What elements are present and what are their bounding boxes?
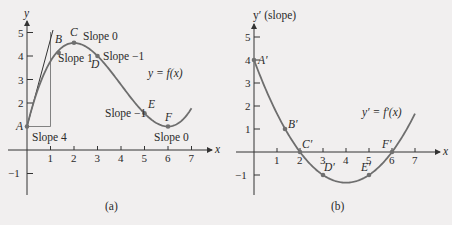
x-tick-b-2: 2	[297, 154, 303, 166]
point-f	[166, 124, 171, 129]
x-axis-label-b: x	[442, 145, 449, 157]
curve-label-f-prime: y′ = f′(x)	[361, 106, 402, 119]
y-tick-3: 3	[18, 74, 24, 86]
y-tick-b-neg1: −1	[235, 169, 247, 181]
y-tick-b-4: 4	[245, 54, 251, 66]
x-tick-b-4: 4	[343, 154, 349, 166]
point-b-prime	[283, 127, 288, 132]
label-e: E	[147, 98, 155, 110]
x-ticks-b: 1 2 3 4 5 6 7	[274, 148, 418, 166]
y-tick-b-3: 3	[245, 77, 251, 89]
x-tick-2: 2	[71, 152, 77, 164]
y-tick-b-1: 1	[245, 123, 251, 135]
caption-a: (a)	[105, 200, 118, 213]
annotation-slope-c: Slope 0	[83, 30, 118, 43]
point-c	[72, 41, 77, 46]
y-tick-5: 5	[18, 27, 24, 39]
point-c-prime	[298, 150, 303, 155]
y-tick-2: 2	[18, 97, 24, 109]
y-tick-b-2: 2	[245, 100, 251, 112]
label-a-prime: A′	[257, 54, 268, 66]
annotation-slope-d: Slope −1	[103, 50, 145, 63]
y-tick-b-5: 5	[245, 31, 251, 43]
point-a-prime	[252, 58, 257, 63]
x-ticks: 1 2 3 4 5 6 7	[48, 146, 195, 164]
x-axis-label: x	[214, 143, 221, 155]
label-e-prime: E′	[360, 161, 371, 173]
label-c-prime: C′	[302, 138, 313, 150]
x-tick-b-7: 7	[412, 154, 418, 166]
x-tick-5: 5	[142, 152, 148, 164]
curve-label-f: y = f(x)	[147, 67, 183, 80]
label-f: F	[164, 111, 173, 123]
x-tick-1: 1	[48, 152, 54, 164]
x-tick-3: 3	[95, 152, 101, 164]
annotation-slope-e: Slope −1	[105, 107, 147, 120]
y-tick-4: 4	[18, 50, 24, 62]
x-tick-7: 7	[189, 152, 195, 164]
label-b-prime: B′	[288, 118, 298, 130]
x-tick-b-1: 1	[274, 154, 280, 166]
caption-b: (b)	[331, 200, 345, 213]
point-e-prime	[367, 173, 372, 178]
point-d-prime	[321, 173, 326, 178]
label-b: B	[55, 33, 62, 45]
annotation-slope-f: Slope 0	[154, 131, 189, 144]
y-axis-label-b: y′ (slope)	[253, 9, 296, 22]
label-f-prime: F′	[381, 138, 392, 150]
figure: y x 1 2 3 4 5 6 7 −1 2 3	[0, 0, 452, 225]
y-tick-neg1: −1	[8, 167, 20, 179]
y-ticks: −1 2 3 4 5	[8, 27, 33, 180]
x-tick-4: 4	[118, 152, 124, 164]
panel-b: y′ (slope) x 1 2 3 4 5 6 7 −1 1	[235, 9, 449, 213]
panel-a: y x 1 2 3 4 5 6 7 −1 2 3	[8, 7, 221, 213]
point-f-prime	[390, 150, 395, 155]
annotation-slope-a: Slope 4	[32, 131, 67, 144]
label-c: C	[70, 26, 78, 38]
x-tick-6: 6	[165, 152, 171, 164]
label-d-prime: D′	[323, 161, 335, 173]
y-axis-label: y	[23, 7, 30, 20]
annotation-slope-b: Slope 1	[58, 52, 93, 65]
point-a	[25, 124, 30, 129]
label-a: A	[15, 120, 24, 132]
y-ticks-b: −1 1 2 3 4 5	[235, 31, 260, 181]
